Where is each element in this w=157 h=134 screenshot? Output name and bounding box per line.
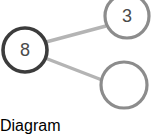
node-child-bottom[interactable] [101,62,147,108]
edge-layer [45,26,106,80]
node-root-label: 8 [20,40,30,60]
node-child-top-label: 3 [122,6,132,26]
node-child-bottom-circle[interactable] [101,62,147,108]
node-layer: 8 3 [3,0,149,108]
edge-root-to-bottom-node [45,58,102,80]
node-root[interactable]: 8 [3,28,47,72]
diagram-canvas: 8 3 [0,0,157,117]
node-link-diagram: 8 3 [0,0,157,117]
node-child-top[interactable]: 3 [105,0,149,38]
edge-root-to-top-node [46,26,106,42]
